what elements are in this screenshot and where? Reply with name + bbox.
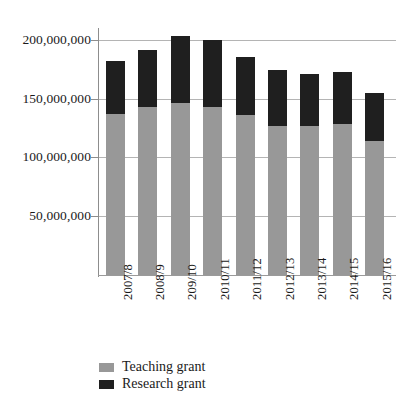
bar-group: [171, 28, 190, 275]
x-axis-label-wrapper: 2014/15: [348, 283, 361, 302]
y-axis-tick-label: 200,000,000: [5, 33, 91, 47]
legend-label: Teaching grant: [122, 360, 205, 374]
y-axis-tick: [91, 99, 99, 100]
bar-segment-teaching-grant: [268, 126, 287, 275]
y-axis-tick: [91, 157, 99, 158]
plot-area: [98, 28, 396, 275]
bar-segment-research-grant: [365, 93, 384, 141]
x-axis-tick-label: 2011/12: [251, 283, 264, 302]
x-axis-tick-label: 2015/16: [381, 283, 394, 302]
bar-segment-teaching-grant: [236, 115, 255, 275]
bar-segment-teaching-grant: [333, 124, 352, 275]
bar-segment-research-grant: [171, 36, 190, 103]
bar-segment-research-grant: [203, 40, 222, 107]
y-axis-tick-label: 100,000,000: [5, 150, 91, 164]
x-axis-tick-label: 2007/8: [122, 283, 135, 302]
bar-segment-teaching-grant: [138, 107, 157, 275]
x-axis-tick-label: 209/10: [186, 283, 199, 302]
x-axis-tick-label: 2013/14: [316, 283, 329, 302]
bar-group: [365, 28, 384, 275]
bar-group: [333, 28, 352, 275]
legend-label: Research grant: [122, 377, 206, 391]
bar-segment-teaching-grant: [300, 126, 319, 275]
bar-segment-teaching-grant: [365, 141, 384, 275]
bar-segment-research-grant: [236, 57, 255, 115]
y-axis-tick: [91, 216, 99, 217]
bar-segment-research-grant: [300, 74, 319, 126]
bar-segment-research-grant: [268, 70, 287, 125]
x-axis-label-wrapper: 209/10: [186, 283, 199, 302]
legend-item[interactable]: Teaching grant: [99, 359, 206, 375]
y-axis-tick: [91, 40, 99, 41]
bar-group: [236, 28, 255, 275]
bar-segment-teaching-grant: [106, 114, 125, 275]
bar-segment-research-grant: [138, 50, 157, 106]
x-axis-tick-label: 2008/9: [154, 283, 167, 302]
x-axis-label-wrapper: 2015/16: [381, 283, 394, 302]
y-axis-tick-label: 50,000,000: [5, 209, 91, 223]
chart-legend: Teaching grantResearch grant: [99, 359, 206, 393]
legend-item[interactable]: Research grant: [99, 376, 206, 392]
x-axis-tick-label: 2010/11: [219, 283, 232, 302]
bar-segment-teaching-grant: [203, 107, 222, 275]
y-axis-tick-label: 150,000,000: [5, 92, 91, 106]
x-axis-label-wrapper: 2011/12: [251, 283, 264, 302]
legend-swatch-teaching: [99, 363, 114, 372]
legend-swatch-research: [99, 380, 114, 389]
bar-segment-research-grant: [106, 61, 125, 114]
x-axis-label-wrapper: 2013/14: [316, 283, 329, 302]
bar-segment-research-grant: [333, 72, 352, 125]
bar-group: [300, 28, 319, 275]
x-axis-label-wrapper: 2010/11: [219, 283, 232, 302]
x-axis-tick-label: 2012/13: [284, 283, 297, 302]
bar-group: [138, 28, 157, 275]
bar-group: [203, 28, 222, 275]
bar-segment-teaching-grant: [171, 103, 190, 275]
bar-group: [268, 28, 287, 275]
y-axis-labels: 50,000,000100,000,000150,000,000200,000,…: [0, 0, 91, 409]
x-axis-label-wrapper: 2012/13: [284, 283, 297, 302]
bar-group: [106, 28, 125, 275]
stacked-bar-chart: 50,000,000100,000,000150,000,000200,000,…: [0, 0, 410, 409]
x-axis-label-wrapper: 2007/8: [122, 283, 135, 302]
x-axis-tick-label: 2014/15: [348, 283, 361, 302]
x-axis-label-wrapper: 2008/9: [154, 283, 167, 302]
